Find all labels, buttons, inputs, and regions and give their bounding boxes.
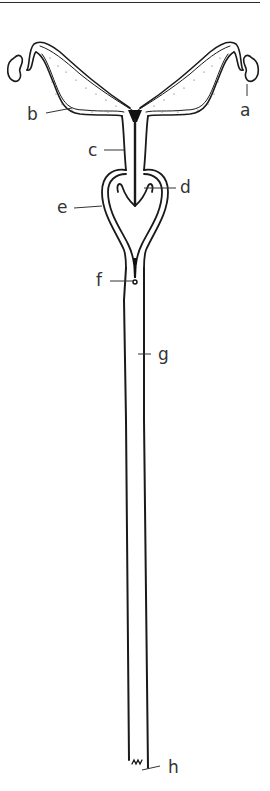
label-d: d — [180, 177, 191, 197]
chamber-inner — [108, 174, 134, 264]
leader-e — [74, 206, 102, 208]
label-h: h — [168, 757, 179, 777]
pore — [133, 280, 137, 284]
canal-left-wall — [122, 116, 126, 170]
label-f: f — [96, 270, 103, 290]
leader-h — [142, 766, 160, 770]
tube-left-wall — [124, 268, 129, 760]
leader-b — [46, 108, 72, 113]
label-g: g — [158, 344, 169, 364]
canal-right-wall — [144, 116, 148, 170]
right-oviduct-inner — [148, 52, 234, 116]
fold-left — [117, 184, 135, 206]
left-oviduct-outer — [27, 42, 130, 108]
fold-right — [135, 184, 153, 206]
label-e: e — [57, 197, 67, 217]
tube-end — [132, 760, 142, 764]
label-a: a — [240, 100, 250, 120]
left-ovary — [8, 55, 23, 81]
right-ovary — [244, 55, 259, 81]
label-b: b — [27, 104, 38, 124]
diagram-canvas: a b c d e f g h — [0, 0, 270, 791]
tube-right-wall — [144, 268, 148, 768]
label-c: c — [88, 140, 97, 160]
right-oviduct-outer — [140, 42, 243, 108]
left-oviduct-inner — [36, 52, 122, 116]
